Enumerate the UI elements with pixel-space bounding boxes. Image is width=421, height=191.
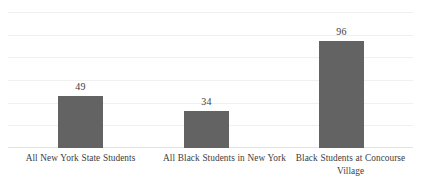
bar-all-new-york-state-students[interactable] [58, 96, 103, 148]
bar-chart: 49 34 96 All New York State Students All… [0, 0, 421, 191]
value-label-all-new-york-state-students: 49 [58, 81, 103, 93]
category-axis: All New York State Students All Black St… [0, 150, 421, 191]
gridline-7 [8, 12, 413, 13]
value-label-all-black-students-in-new-york: 34 [184, 96, 229, 108]
plot-area: 49 34 96 [0, 12, 421, 148]
category-label-all-new-york-state-students: All New York State Students [6, 152, 155, 165]
bar-all-black-students-in-new-york[interactable] [184, 111, 229, 148]
category-label-black-students-at-concourse-village: Black Students at Concourse Village [282, 152, 419, 177]
category-label-all-black-students-in-new-york: All Black Students in New York [152, 152, 297, 165]
value-label-black-students-at-concourse-village: 96 [319, 26, 364, 38]
bar-black-students-at-concourse-village[interactable] [319, 41, 364, 148]
